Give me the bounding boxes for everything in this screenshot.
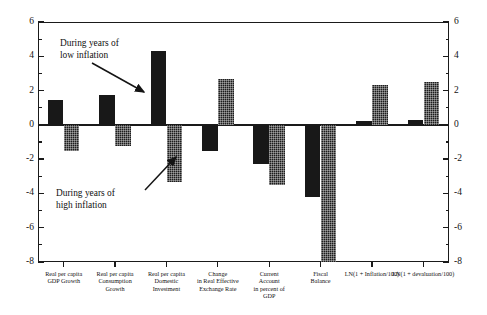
y-tick-label-left-4: 4 (12, 51, 34, 61)
bar-low-inflation-2 (151, 51, 167, 125)
x-axis-label-7: LN(1 + devaluation/100) (386, 270, 460, 277)
y-tick-minor-right-1 (446, 107, 450, 108)
y-tick-label-left-0: 0 (12, 120, 34, 130)
y-tick-label-right--8: -8 (454, 257, 476, 267)
y-tick-major-left--4 (38, 193, 44, 194)
y-tick-label-right-6: 6 (454, 17, 476, 27)
y-tick-label-left--4: -4 (12, 188, 34, 198)
y-tick-minor-right--1 (446, 141, 450, 142)
bar-high-inflation-4 (269, 125, 285, 185)
bar-high-inflation-6 (372, 85, 388, 124)
y-tick-minor-left--3 (38, 176, 42, 177)
x-axis-label-0: Real per capita GDP Growth (36, 270, 92, 285)
y-tick-major-left--8 (38, 261, 44, 262)
chart-figure: 66442200-2-2-4-4-6-6-8-8 Real per capita… (0, 0, 487, 315)
y-tick-minor-right-3 (446, 73, 450, 74)
x-tick-0 (63, 262, 64, 267)
y-tick-major-right--2 (443, 158, 449, 159)
y-tick-label-left-6: 6 (12, 17, 34, 27)
y-tick-minor-left-1 (38, 107, 42, 108)
y-tick-minor-right-5 (446, 39, 450, 40)
y-tick-major-right-4 (443, 56, 449, 57)
bar-low-inflation-4 (253, 125, 269, 164)
y-tick-major-left-6 (38, 21, 44, 22)
y-tick-minor-right--7 (446, 244, 450, 245)
y-tick-minor-right--3 (446, 176, 450, 177)
bar-low-inflation-3 (202, 125, 218, 151)
x-axis-label-2: Real per capita Domestic Investment (138, 270, 194, 292)
annotation-high-inflation: During years of high inflation (56, 188, 115, 211)
y-tick-label-right--2: -2 (454, 154, 476, 164)
bar-low-inflation-6 (356, 121, 372, 125)
y-tick-major-left-0 (38, 124, 44, 125)
bar-high-inflation-5 (321, 125, 337, 262)
y-tick-label-right-2: 2 (454, 86, 476, 96)
y-tick-major-left-2 (38, 90, 44, 91)
y-tick-major-left-4 (38, 56, 44, 57)
y-tick-major-left--2 (38, 158, 44, 159)
y-tick-major-left--6 (38, 227, 44, 228)
bar-high-inflation-2 (167, 125, 183, 182)
y-tick-major-right--4 (443, 193, 449, 194)
y-tick-minor-left--7 (38, 244, 42, 245)
y-tick-label-right-0: 0 (454, 120, 476, 130)
x-tick-2 (166, 262, 167, 267)
bar-high-inflation-7 (424, 82, 440, 125)
bar-low-inflation-5 (305, 125, 321, 197)
y-tick-major-right--8 (443, 261, 449, 262)
y-tick-label-right--4: -4 (454, 188, 476, 198)
x-tick-4 (269, 262, 270, 267)
y-tick-label-left--2: -2 (12, 154, 34, 164)
y-tick-major-right--6 (443, 227, 449, 228)
y-tick-major-right-2 (443, 90, 449, 91)
x-tick-3 (217, 262, 218, 267)
x-axis-label-3: Change in Real Effective Exchange Rate (190, 270, 246, 292)
annotation-low-inflation: During years of low inflation (60, 38, 119, 61)
x-tick-6 (371, 262, 372, 267)
bar-high-inflation-0 (64, 125, 80, 151)
y-tick-minor-left--1 (38, 141, 42, 142)
x-axis-label-1: Real per capita Consumption Growth (87, 270, 143, 292)
y-tick-label-right--6: -6 (454, 223, 476, 233)
x-tick-1 (114, 262, 115, 267)
bar-low-inflation-0 (48, 100, 64, 125)
y-tick-label-right-4: 4 (454, 51, 476, 61)
y-tick-minor-right--5 (446, 210, 450, 211)
y-tick-major-right-0 (443, 124, 449, 125)
y-tick-label-left-2: 2 (12, 86, 34, 96)
y-tick-label-left--6: -6 (12, 223, 34, 233)
x-axis-label-4: Current Account in percent of GDP (241, 270, 297, 299)
y-tick-minor-left--5 (38, 210, 42, 211)
y-tick-minor-left-5 (38, 39, 42, 40)
x-tick-7 (423, 262, 424, 267)
bar-high-inflation-1 (115, 125, 131, 146)
y-tick-label-left--8: -8 (12, 257, 34, 267)
x-tick-5 (320, 262, 321, 267)
bar-high-inflation-3 (218, 79, 234, 124)
bar-low-inflation-1 (99, 95, 115, 125)
y-tick-major-right-6 (443, 21, 449, 22)
y-tick-minor-left-3 (38, 73, 42, 74)
bar-low-inflation-7 (408, 120, 424, 125)
